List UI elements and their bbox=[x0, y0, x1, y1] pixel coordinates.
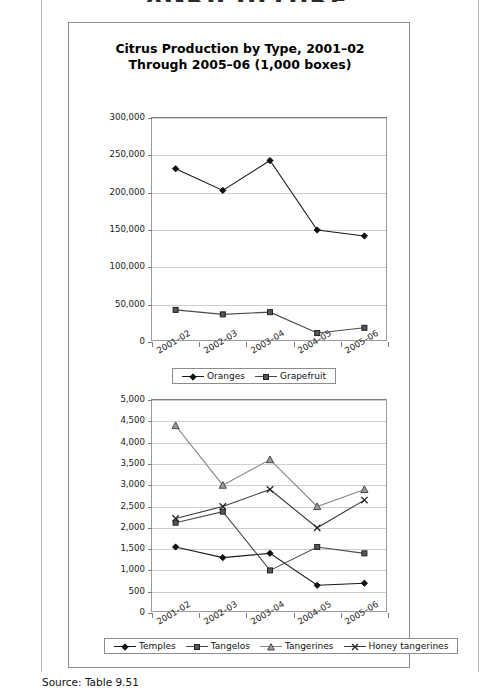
legend-item-grapefruit[interactable]: Grapefruit bbox=[252, 371, 329, 381]
data-point-marker-square bbox=[362, 551, 367, 556]
data-point-marker-triangle bbox=[361, 486, 368, 493]
figure-container: Citrus Production by Type, 2001–02 Throu… bbox=[68, 22, 410, 668]
x-axis-tick bbox=[199, 342, 200, 347]
y-axis-label: 1,500 bbox=[69, 543, 145, 553]
chart-citrus-specialty: Temples Tangelos Tangerines Honey tanger… bbox=[69, 381, 411, 663]
legend-marker-x bbox=[351, 643, 359, 651]
data-point-marker-square bbox=[173, 307, 178, 312]
plot-area-chart-1 bbox=[151, 117, 387, 341]
data-point-marker-diamond bbox=[314, 227, 320, 233]
legend-marker bbox=[121, 643, 129, 653]
legend-key bbox=[186, 642, 208, 651]
y-axis-label: 3,500 bbox=[69, 458, 145, 468]
legend-key bbox=[255, 372, 277, 381]
legend-item-oranges[interactable]: Oranges bbox=[179, 371, 248, 381]
running-head: AGRICULTURE bbox=[0, 0, 492, 2]
data-point-marker-diamond bbox=[173, 166, 179, 172]
legend-label: Tangelos bbox=[211, 641, 250, 651]
chart-citrus-oranges-grapefruit: Oranges Grapefruit 050,000100,000150,000… bbox=[69, 89, 411, 387]
x-axis-tick bbox=[294, 613, 295, 618]
x-axis-tick bbox=[388, 342, 389, 347]
legend-marker bbox=[351, 643, 359, 653]
series-layer bbox=[152, 400, 388, 613]
data-point-marker-square bbox=[362, 325, 367, 330]
y-axis-label: 4,500 bbox=[69, 415, 145, 425]
page-rule-left bbox=[41, 0, 42, 672]
y-axis-label: 500 bbox=[69, 586, 145, 596]
y-axis-label: 4,000 bbox=[69, 437, 145, 447]
figure-title: Citrus Production by Type, 2001–02 Throu… bbox=[69, 41, 411, 73]
data-point-marker-diamond bbox=[173, 544, 179, 550]
legend-marker-square bbox=[193, 643, 201, 651]
series-line-oranges bbox=[176, 161, 365, 236]
legend-key bbox=[182, 372, 204, 381]
legend-item-honey-tangerines[interactable]: Honey tangerines bbox=[341, 641, 452, 651]
page-canvas: AGRICULTURE Citrus Production by Type, 2… bbox=[0, 0, 492, 700]
x-axis-tick bbox=[199, 613, 200, 618]
legend-item-tangelos[interactable]: Tangelos bbox=[183, 641, 253, 651]
x-axis-tick bbox=[152, 342, 153, 347]
figure-title-line-2: Through 2005–06 (1,000 boxes) bbox=[69, 57, 411, 73]
data-point-marker-diamond bbox=[361, 580, 367, 586]
legend-marker bbox=[267, 643, 275, 653]
legend-chart-2: Temples Tangelos Tangerines Honey tanger… bbox=[104, 638, 458, 654]
legend-marker-diamond bbox=[121, 643, 129, 651]
data-point-marker-square bbox=[315, 544, 320, 549]
data-point-marker-diamond bbox=[314, 582, 320, 588]
plot-area-chart-2 bbox=[151, 399, 387, 612]
y-axis-label: 200,000 bbox=[69, 187, 145, 197]
data-point-marker-x bbox=[267, 486, 273, 492]
data-point-marker-diamond bbox=[267, 550, 273, 556]
data-point-marker-diamond bbox=[220, 187, 226, 193]
data-point-marker-triangle bbox=[266, 456, 273, 463]
legend-label: Oranges bbox=[207, 371, 245, 381]
y-axis-label: 1,000 bbox=[69, 564, 145, 574]
legend-label: Temples bbox=[139, 641, 176, 651]
y-axis-label: 100,000 bbox=[69, 261, 145, 271]
legend-label: Honey tangerines bbox=[369, 641, 449, 651]
legend-marker-triangle bbox=[267, 643, 275, 651]
figure-title-line-1: Citrus Production by Type, 2001–02 bbox=[69, 41, 411, 57]
legend-key bbox=[344, 642, 366, 651]
data-point-marker-x bbox=[314, 525, 320, 531]
series-line-tangelos bbox=[176, 512, 365, 571]
y-axis-label: 150,000 bbox=[69, 224, 145, 234]
data-point-marker-x bbox=[361, 497, 367, 503]
y-axis-label: 5,000 bbox=[69, 394, 145, 404]
y-axis-label: 0 bbox=[69, 336, 145, 346]
y-axis-label: 50,000 bbox=[69, 299, 145, 309]
data-point-marker-diamond bbox=[361, 233, 367, 239]
x-axis-tick bbox=[152, 613, 153, 618]
legend-marker bbox=[193, 643, 201, 653]
data-point-marker-square bbox=[220, 509, 225, 514]
y-axis-label: 300,000 bbox=[69, 112, 145, 122]
y-axis-label: 0 bbox=[69, 607, 145, 617]
y-axis-label: 3,000 bbox=[69, 479, 145, 489]
legend-marker-square bbox=[262, 373, 270, 381]
series-line-honey-tangerines bbox=[176, 489, 365, 527]
data-point-marker-square bbox=[268, 310, 273, 315]
y-axis-label: 2,500 bbox=[69, 501, 145, 511]
y-axis-label: 250,000 bbox=[69, 149, 145, 159]
legend-label: Grapefruit bbox=[280, 371, 326, 381]
series-layer bbox=[152, 118, 388, 342]
x-axis-tick bbox=[388, 613, 389, 618]
y-axis-label: 2,000 bbox=[69, 522, 145, 532]
legend-key bbox=[260, 642, 282, 651]
data-point-marker-square bbox=[268, 568, 273, 573]
legend-item-tangerines[interactable]: Tangerines bbox=[257, 641, 337, 651]
data-point-marker-triangle bbox=[172, 422, 179, 429]
data-point-marker-square bbox=[220, 312, 225, 317]
data-point-marker-diamond bbox=[220, 555, 226, 561]
legend-key bbox=[114, 642, 136, 651]
x-axis-tick bbox=[246, 342, 247, 347]
page-rule-right bbox=[478, 0, 479, 672]
legend-marker-diamond bbox=[189, 373, 197, 381]
x-axis-tick bbox=[294, 342, 295, 347]
data-point-marker-diamond bbox=[267, 157, 273, 163]
series-line-tangerines bbox=[176, 426, 365, 507]
x-axis-tick bbox=[246, 613, 247, 618]
legend-item-temples[interactable]: Temples bbox=[111, 641, 179, 651]
source-note: Source: Table 9.51 bbox=[42, 676, 139, 688]
legend-label: Tangerines bbox=[285, 641, 334, 651]
